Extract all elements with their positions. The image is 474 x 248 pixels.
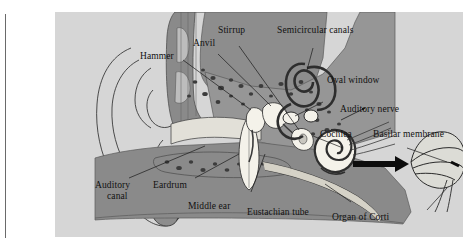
- label-organ-of-corti: Organ of Corti: [332, 212, 389, 223]
- label-semicircular-canals: Semicircular canals: [277, 25, 354, 36]
- label-eustachian-tube: Eustachian tube: [247, 207, 309, 218]
- label-auditory-nerve: Auditory nerve: [340, 104, 399, 115]
- label-auditory-canal-line1: Auditory: [95, 180, 130, 191]
- label-eardrum: Eardrum: [153, 180, 187, 191]
- cochlea-cross-section-inset: [411, 132, 463, 212]
- label-cochlea: Cochlea: [320, 129, 352, 140]
- label-basilar-membrane: Basilar membrane: [373, 129, 444, 140]
- ear-anatomy-illustration: [55, 12, 463, 237]
- label-stirrup: Stirrup: [218, 25, 245, 36]
- label-auditory-canal-line2: canal: [107, 191, 128, 202]
- label-anvil: Anvil: [193, 38, 215, 49]
- figure-page: Hammer Anvil Stirrup Semicircular canals…: [0, 0, 474, 248]
- label-oval-window: Oval window: [327, 75, 380, 86]
- left-margin-rule: [5, 14, 6, 238]
- label-middle-ear: Middle ear: [188, 201, 230, 212]
- label-hammer: Hammer: [140, 51, 174, 62]
- ear-anatomy-figure: Hammer Anvil Stirrup Semicircular canals…: [55, 12, 463, 237]
